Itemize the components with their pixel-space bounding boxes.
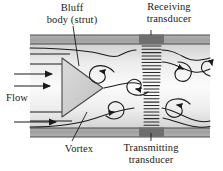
label-bluff-body-line1: Bluff (61, 2, 83, 13)
transmitting-transducer-block (139, 128, 164, 138)
vortex-flowmeter-figure: Bluff body (strut) Receiving transducer … (0, 0, 223, 171)
receiving-transducer-block (139, 35, 164, 45)
pipe-wall-top (30, 35, 210, 44)
label-bluff-body: Bluff body (strut) (34, 2, 110, 25)
label-receiving-transducer: Receiving transducer (128, 1, 210, 24)
pipe-wall-bottom (30, 128, 210, 137)
label-receiving-transducer-line2: transducer (147, 13, 192, 24)
label-flow: Flow (6, 92, 46, 104)
label-transmitting-transducer-line1: Transmitting (123, 142, 178, 153)
label-receiving-transducer-line1: Receiving (147, 1, 190, 12)
label-transmitting-transducer: Transmitting transducer (106, 142, 196, 165)
label-transmitting-transducer-line2: transducer (129, 154, 174, 165)
label-bluff-body-line2: body (strut) (47, 14, 98, 25)
label-vortex: Vortex (48, 143, 110, 155)
